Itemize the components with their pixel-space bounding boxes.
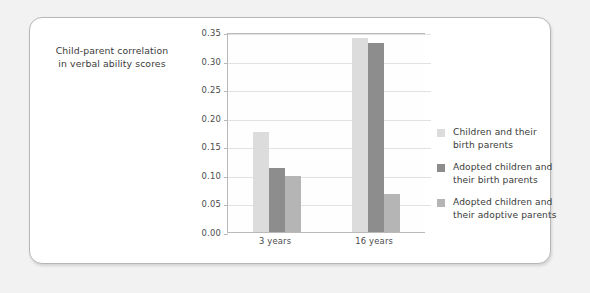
legend-swatch-icon [437, 199, 445, 207]
legend-label-line-1: Children and their [453, 126, 537, 139]
y-axis-title-line-1: Child-parent correlation [42, 44, 182, 57]
bar [368, 43, 384, 232]
plot-area [227, 33, 425, 233]
bar [269, 168, 285, 232]
y-tick-label: 0.30 [202, 57, 221, 67]
legend-swatch-icon [437, 129, 445, 137]
legend-label-line-2: birth parents [453, 139, 537, 152]
legend-label-line-1: Adopted children and [453, 161, 552, 174]
bar [285, 176, 301, 232]
chart-legend: Children and theirbirth parentsAdopted c… [437, 126, 587, 231]
legend-label: Adopted children andtheir birth parents [453, 161, 552, 186]
bar [352, 38, 368, 232]
x-category-label: 3 years [259, 236, 291, 246]
legend-label-line-2: their adoptive parents [453, 209, 556, 222]
y-axis-tick-labels: 0.000.050.100.150.200.250.300.35 [187, 33, 221, 233]
bar-group [352, 34, 400, 232]
y-tick-label: 0.35 [202, 28, 221, 38]
legend-item: Children and theirbirth parents [437, 126, 587, 151]
legend-label: Adopted children andtheir adoptive paren… [453, 196, 556, 221]
legend-swatch-icon [437, 164, 445, 172]
y-axis-title-line-2: in verbal ability scores [42, 57, 182, 70]
y-tick-label: 0.05 [202, 199, 221, 209]
plot-area-wrapper: 0.000.050.100.150.200.250.300.35 3 years… [187, 33, 427, 253]
y-axis-title: Child-parent correlation in verbal abili… [42, 44, 182, 70]
bar-groups [228, 34, 425, 232]
x-axis-category-labels: 3 years16 years [227, 236, 425, 246]
y-tick-label: 0.00 [202, 228, 221, 238]
chart-card: Child-parent correlation in verbal abili… [29, 17, 551, 264]
y-tick-mark [224, 234, 228, 235]
y-tick-label: 0.15 [202, 142, 221, 152]
legend-label-line-1: Adopted children and [453, 196, 556, 209]
legend-label-line-2: their birth parents [453, 174, 552, 187]
bar-group [253, 34, 301, 232]
legend-item: Adopted children andtheir birth parents [437, 161, 587, 186]
x-category-label: 16 years [355, 236, 393, 246]
y-tick-label: 0.25 [202, 85, 221, 95]
legend-item: Adopted children andtheir adoptive paren… [437, 196, 587, 221]
bar [253, 132, 269, 232]
legend-label: Children and theirbirth parents [453, 126, 537, 151]
y-tick-label: 0.10 [202, 171, 221, 181]
bar [384, 194, 400, 232]
y-tick-label: 0.20 [202, 114, 221, 124]
